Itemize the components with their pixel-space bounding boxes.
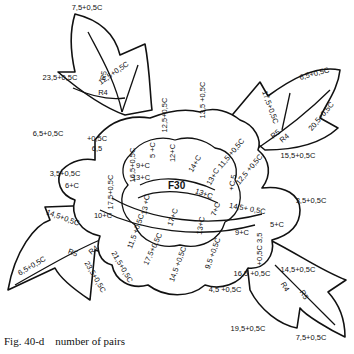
pair-count-label-bottom-right-75: 7,5+0,5C [296, 333, 327, 342]
pair-count-label-bottom-right-195: 19,5+0,5C [231, 324, 266, 333]
pair-count-label-left-upper-inner-b: 6,5 [92, 144, 102, 153]
figure-caption: Fig. 40-d number of pairs [4, 335, 125, 347]
pair-count-label-left-upper-outer: 6,5+0,5C [33, 129, 64, 138]
pair-count-label-inner-13c-a: 13+C [132, 173, 151, 182]
pair-count-label-right-leaf-155: 15,5+0,5C [281, 151, 316, 160]
lace-pattern-diagram: F30 7,5+0,5C23,5+0,5C12,5+0,5CR5R46,5+0,… [0, 0, 354, 354]
pair-count-label-bottom-45: 4,5 +0,5C [209, 285, 242, 294]
pair-count-label-inner-5c: 5 +C [148, 141, 157, 158]
pair-count-label-top-leaf-r4: R4 [98, 88, 108, 97]
pair-count-label-right-5c: 5+C [270, 220, 285, 229]
pair-count-label-inner-12c: 12+C [168, 143, 177, 162]
pair-count-label-bottom-right-inner: +0,5C 3,5 [255, 233, 264, 266]
pair-count-label-bottom-right-165: 16,5 +0,5C [234, 269, 271, 278]
pair-count-label-right-35: 3,5+0,5C [296, 196, 327, 205]
pair-count-label-top-leaf-r5: R5 [98, 70, 109, 81]
pair-count-label-top-leaf-tip: 7,5+0,5C [72, 3, 103, 12]
pair-count-label-bottom-right-145: 14,5+0,5C [281, 265, 316, 274]
pair-count-label-left-upper-inner-a: +0,5C [87, 134, 108, 143]
pair-count-label-left-10c: 10+C [94, 211, 113, 220]
pair-count-label-left-mid-175: 17,5+0,5C [106, 174, 115, 209]
pair-count-label-left-mid-35: 3,5+0,5C [50, 169, 81, 178]
pair-count-label-right-9c: 9+C [235, 228, 250, 237]
center-label: F30 [168, 180, 186, 191]
pair-count-label-top-petal-125: 12,5+0,5C [160, 97, 169, 132]
pair-count-label-left-mid-6c: 6+C [65, 181, 80, 190]
pair-count-label-inner-9c: 9+C [136, 161, 151, 170]
pair-count-label-top-leaf-left: 23,5+0,5C [43, 73, 78, 82]
pair-count-label-top-petal-135: 13,5 +0,5C [198, 81, 207, 118]
